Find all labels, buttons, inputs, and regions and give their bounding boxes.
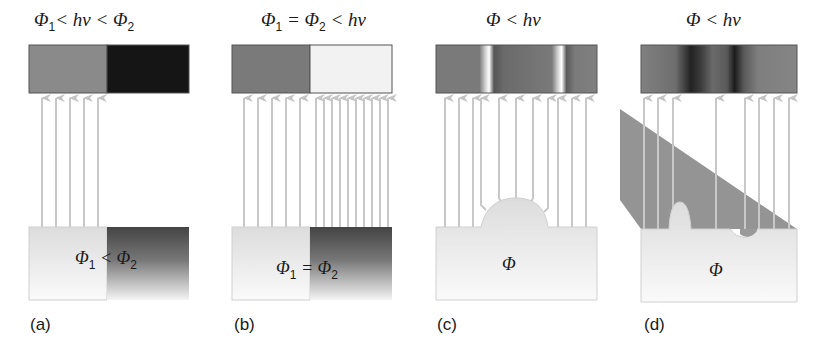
panel-b-specimen-label: Φ1 = Φ2 <box>276 258 338 282</box>
screen-a-right <box>107 45 189 93</box>
screen-b-right <box>310 45 392 93</box>
panel-a-title: Φ1< hν < Φ2 <box>34 9 134 34</box>
panel-d-label: (d) <box>644 315 665 335</box>
panel-d-specimen-label: Φ <box>709 260 723 281</box>
panel-a-specimen-label: Φ1 < Φ2 <box>75 248 137 272</box>
screen-c <box>436 45 597 93</box>
panel-c-title: Φ < hν <box>486 9 541 31</box>
screen-a-left <box>29 45 107 93</box>
oblique-beam-shadow <box>620 109 797 229</box>
arrows-a <box>42 98 98 227</box>
arrows-b <box>244 98 388 227</box>
panel-b-title: Φ1 = Φ2 < hν <box>261 9 366 34</box>
panel-c-graphics <box>436 45 597 300</box>
panel-a-label: (a) <box>30 315 51 335</box>
figure-graphics <box>0 0 828 355</box>
panel-c-specimen-label: Φ <box>502 254 516 275</box>
panel-b-label: (b) <box>234 315 255 335</box>
panel-c-label: (c) <box>437 315 457 335</box>
screen-b-left <box>232 45 310 93</box>
screen-d <box>641 45 797 93</box>
panel-d-title: Φ < hν <box>686 9 741 31</box>
